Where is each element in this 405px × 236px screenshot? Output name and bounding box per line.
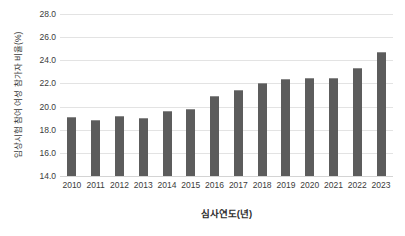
bar (163, 111, 172, 176)
x-axis-tick-label: 2021 (322, 180, 346, 190)
y-axis-tick-label: 14.0 (39, 171, 56, 181)
x-axis-tick-label: 2014 (155, 180, 179, 190)
bar-slot (369, 14, 393, 176)
bar-slot (345, 14, 369, 176)
x-axis-tick-label: 2010 (60, 180, 84, 190)
bar (91, 120, 100, 176)
bar-slot (274, 14, 298, 176)
gridline (60, 176, 393, 177)
bar (377, 52, 386, 176)
y-axis-tick-labels: 28.026.024.022.020.018.016.014.0 (22, 14, 56, 176)
x-axis-tick-label: 2022 (345, 180, 369, 190)
x-axis-tick-label: 2018 (250, 180, 274, 190)
x-axis-tick-label: 2012 (108, 180, 132, 190)
y-axis-tick-label: 26.0 (39, 32, 56, 42)
bar (139, 118, 148, 176)
y-axis-tick-label: 20.0 (39, 102, 56, 112)
bar-series (60, 14, 393, 176)
bar (353, 68, 362, 176)
bar-slot (226, 14, 250, 176)
bar-slot (155, 14, 179, 176)
bar-slot (60, 14, 84, 176)
plot-area (60, 14, 393, 176)
bar (210, 96, 219, 176)
bar (186, 109, 195, 176)
bar (234, 90, 243, 176)
bar-slot (108, 14, 132, 176)
x-axis-tick-label: 2019 (274, 180, 298, 190)
y-axis-tick-label: 24.0 (39, 55, 56, 65)
bar (67, 117, 76, 176)
x-axis-tick-label: 2015 (179, 180, 203, 190)
bar-slot (322, 14, 346, 176)
bar (115, 116, 124, 176)
y-axis-tick-label: 22.0 (39, 78, 56, 88)
x-axis-tick-label: 2016 (203, 180, 227, 190)
bar-chart: 임상시험 참여 여성 참가자 비율(%) 28.026.024.022.020.… (0, 0, 405, 236)
bar-slot (179, 14, 203, 176)
x-axis-tick-label: 2023 (369, 180, 393, 190)
bar (281, 79, 290, 176)
x-axis-tick-label: 2013 (131, 180, 155, 190)
x-axis-tick-label: 2020 (298, 180, 322, 190)
bar (258, 83, 267, 176)
bar-slot (131, 14, 155, 176)
x-axis-tick-labels: 2010201120122013201420152016201720182019… (60, 180, 393, 190)
x-axis-tick-label: 2011 (84, 180, 108, 190)
bar-slot (84, 14, 108, 176)
bar (329, 78, 338, 176)
bar-slot (250, 14, 274, 176)
x-axis-title: 심사연도(년) (60, 206, 393, 220)
bar-slot (298, 14, 322, 176)
y-axis-tick-label: 28.0 (39, 9, 56, 19)
bar-slot (203, 14, 227, 176)
x-axis-tick-label: 2017 (226, 180, 250, 190)
y-axis-tick-label: 18.0 (39, 125, 56, 135)
y-axis-tick-label: 16.0 (39, 148, 56, 158)
bar (305, 78, 314, 176)
